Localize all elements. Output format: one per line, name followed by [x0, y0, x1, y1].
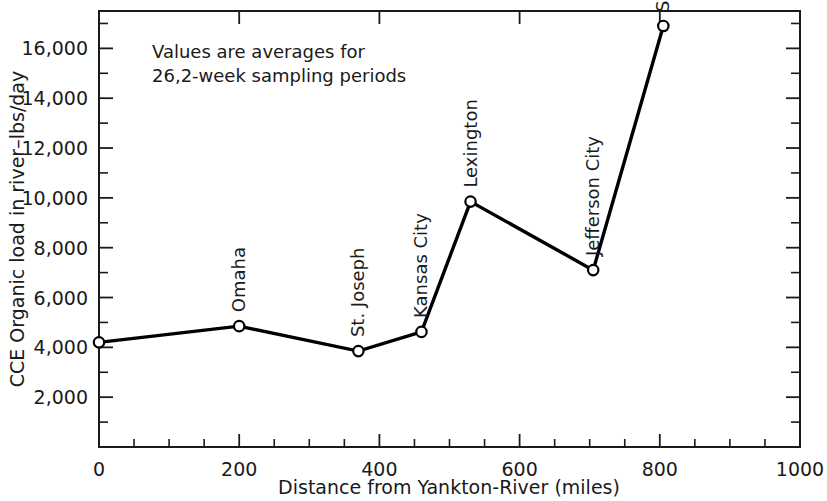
data-point-marker: [234, 321, 244, 331]
data-point-marker: [588, 265, 598, 275]
x-axis-ticks: [134, 434, 765, 447]
data-point-marker: [465, 196, 475, 206]
x-axis-title: Distance from Yankton-River (miles): [278, 476, 620, 498]
x-tick-label: 0: [93, 458, 105, 480]
data-point-marker: [416, 327, 426, 337]
data-point-label: Omaha: [228, 247, 249, 312]
y-tick-label: 4,000: [34, 336, 88, 358]
y-axis-ticks: [99, 23, 113, 422]
data-point-label: Kansas City: [410, 213, 431, 318]
y-axis-ticks-right: [786, 23, 800, 422]
data-point-label: St. Joseph: [347, 248, 368, 338]
line-chart: 2,0004,0006,0008,00010,00012,00014,00016…: [0, 0, 827, 501]
y-tick-label: 8,000: [34, 237, 88, 259]
data-point-label: Lexington: [460, 99, 481, 187]
y-tick-label: 10,000: [22, 187, 88, 209]
y-tick-label: 2,000: [34, 386, 88, 408]
annotation-line-2: 26,2-week sampling periods: [152, 65, 406, 86]
y-tick-label: 14,000: [22, 87, 88, 109]
data-point-marker: [658, 21, 668, 31]
x-tick-label: 200: [221, 458, 257, 480]
x-axis-ticks-top: [239, 11, 660, 24]
data-point-marker: [94, 337, 104, 347]
y-tick-label: 16,000: [22, 37, 88, 59]
x-tick-label: 800: [642, 458, 678, 480]
data-point-label: St. Louis: [652, 0, 673, 12]
x-tick-label: 1000: [776, 458, 824, 480]
chart-figure: 2,0004,0006,0008,00010,00012,00014,00016…: [0, 0, 827, 501]
y-axis-tick-labels: 2,0004,0006,0008,00010,00012,00014,00016…: [22, 37, 88, 408]
y-tick-label: 12,000: [22, 137, 88, 159]
data-point-marker: [353, 346, 363, 356]
y-tick-label: 6,000: [34, 287, 88, 309]
data-point-label: Jefferson City: [582, 136, 603, 257]
y-axis-title: CCE Organic load in river–lbs/day: [6, 71, 28, 387]
annotation-line-1: Values are averages for: [152, 41, 365, 62]
